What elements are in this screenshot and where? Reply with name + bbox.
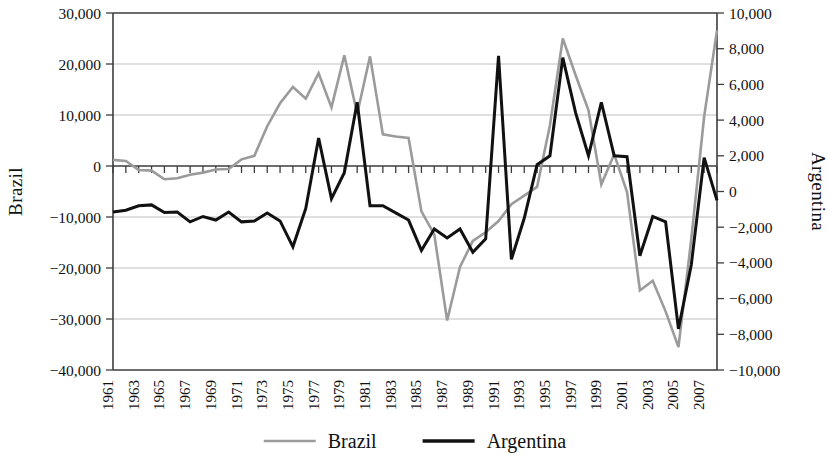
line-chart: 30,00020,00010,0000−10,000−20,000−30,000…: [0, 0, 828, 460]
x-axis-tick-label: 1967: [177, 380, 193, 411]
y-axis-right-tick-label: 6,000: [729, 76, 764, 93]
legend-label-brazil: Brazil: [328, 430, 377, 452]
series-line-brazil: [113, 30, 717, 347]
y-axis-left-title: Brazil: [5, 167, 26, 216]
x-axis-tick-label: 1983: [383, 380, 399, 410]
y-axis-left-tick-label: 10,000: [58, 107, 101, 124]
x-axis-tick-label: 1999: [588, 380, 604, 410]
y-axis-right-tick-label: −10,000: [729, 362, 781, 379]
y-axis-right-tick-label: 8,000: [729, 40, 764, 57]
y-axis-right-tick-label: 4,000: [729, 112, 764, 129]
chart-figure: 30,00020,00010,0000−10,000−20,000−30,000…: [0, 0, 828, 460]
x-axis-tick-label: 1973: [254, 380, 270, 410]
chart-legend: BrazilArgentina: [264, 430, 567, 453]
x-axis-tick-label: 1961: [100, 380, 116, 410]
x-axis-tick-label: 1965: [151, 380, 167, 410]
y-axis-left-tick-label: −30,000: [50, 311, 102, 328]
x-axis-tick-label: 1975: [280, 380, 296, 410]
x-axis-tick-label: 2001: [614, 380, 630, 410]
y-axis-left-tick-label: −40,000: [50, 362, 102, 379]
x-axis-tick-label: 2007: [691, 380, 707, 411]
data-series: [113, 30, 717, 347]
x-axis-tick-label: 1995: [537, 380, 553, 410]
x-axis-tick-label: 1981: [357, 380, 373, 410]
y-axis-right-ticks: [717, 13, 724, 370]
y-axis-left-ticks: [106, 13, 113, 370]
legend-label-argentina: Argentina: [487, 430, 567, 453]
x-axis-tick-label: 1963: [126, 380, 142, 410]
x-axis-tick-label: 1991: [486, 380, 502, 410]
x-axis-tick-label: 1977: [306, 380, 322, 411]
x-axis-tick-label: 1987: [434, 380, 450, 411]
y-axis-left-tick-label: 30,000: [58, 5, 101, 22]
x-axis-tick-label: 2003: [640, 380, 656, 410]
x-axis-labels: 1961196319651967196919711973197519771979…: [100, 380, 707, 411]
y-axis-right-title: Argentina: [808, 152, 828, 231]
x-axis-tick-label: 1985: [408, 380, 424, 410]
x-axis-tick-label: 1997: [563, 380, 579, 411]
x-axis-tick-label: 1979: [331, 380, 347, 410]
y-axis-left-tick-label: −10,000: [50, 209, 102, 226]
x-axis-tick-label: 1969: [203, 380, 219, 410]
y-axis-left-tick-label: 0: [93, 158, 101, 175]
y-axis-right-labels: 10,0008,0006,0004,0002,0000−2,000−4,000−…: [729, 5, 781, 379]
y-axis-right-tick-label: −8,000: [729, 326, 773, 343]
y-axis-right-tick-label: −6,000: [729, 290, 773, 307]
x-axis-tick-label: 2005: [665, 380, 681, 410]
y-axis-right-tick-label: 0: [729, 183, 737, 200]
x-axis-tick-label: 1989: [460, 380, 476, 410]
y-axis-right-tick-label: 10,000: [729, 5, 772, 22]
y-axis-right-tick-label: −2,000: [729, 219, 773, 236]
y-axis-left-tick-label: 20,000: [58, 56, 101, 73]
x-axis-tick-label: 1971: [229, 380, 245, 410]
y-axis-right-tick-label: 2,000: [729, 147, 764, 164]
x-axis-tick-label: 1993: [511, 380, 527, 410]
y-axis-right-tick-label: −4,000: [729, 254, 773, 271]
y-axis-left-labels: 30,00020,00010,0000−10,000−20,000−30,000…: [50, 5, 102, 379]
y-axis-left-tick-label: −20,000: [50, 260, 102, 277]
